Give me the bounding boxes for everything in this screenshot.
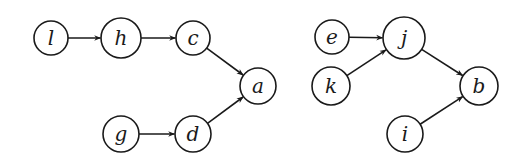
node-label: h	[115, 26, 128, 50]
nodes-group: lhcagdejkbi	[34, 17, 498, 152]
node-d: d	[175, 116, 211, 152]
node-label: e	[326, 25, 338, 49]
node-label: k	[325, 74, 337, 98]
node-i: i	[387, 116, 423, 152]
node-label: g	[115, 122, 128, 146]
edge-j-to-b	[422, 49, 463, 75]
node-k: k	[312, 67, 350, 105]
node-label: i	[402, 122, 408, 146]
node-label: d	[187, 122, 200, 146]
node-l: l	[34, 21, 68, 55]
edge-i-to-b	[420, 97, 463, 125]
node-h: h	[101, 18, 141, 58]
node-label: b	[473, 74, 486, 98]
node-label: a	[252, 74, 264, 98]
node-j: j	[383, 17, 425, 59]
edge-d-to-a	[207, 97, 243, 123]
edge-c-to-a	[207, 48, 243, 75]
node-label: l	[48, 26, 54, 50]
node-b: b	[460, 67, 498, 105]
edge-k-to-j	[347, 50, 386, 76]
node-a: a	[240, 68, 276, 104]
node-e: e	[315, 20, 349, 54]
node-label: c	[187, 26, 198, 50]
directed-graph: lhcagdejkbi	[0, 0, 523, 166]
node-c: c	[176, 21, 210, 55]
node-g: g	[103, 116, 139, 152]
